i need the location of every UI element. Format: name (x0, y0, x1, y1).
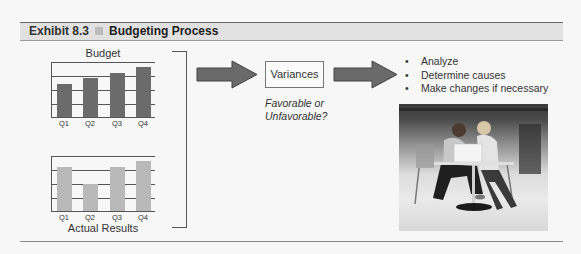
tick-label: Q2 (80, 213, 100, 222)
bar-q1 (57, 84, 72, 117)
exhibit-header: Exhibit 8.3 Budgeting Process (20, 22, 563, 41)
chart-frame (51, 62, 155, 63)
bracket-line (172, 227, 187, 228)
action-list: •Analyze •Determine causes •Make changes… (404, 55, 548, 96)
tick-label: Q1 (54, 213, 74, 222)
question-line: Favorable or (265, 97, 327, 110)
bar-q3 (110, 73, 125, 117)
favorable-question: Favorable or Unfavorable? (265, 97, 327, 123)
chart-baseline (51, 211, 155, 212)
bullet-icon: • (405, 82, 409, 96)
header-square-icon (95, 27, 103, 35)
chart-baseline (51, 117, 155, 118)
bar-q2 (83, 78, 98, 117)
bar-q1 (57, 167, 72, 211)
tick-label: Q2 (80, 119, 100, 128)
bar-q4 (136, 67, 151, 117)
bracket-line (172, 51, 187, 52)
actual-chart-title: Actual Results (51, 222, 155, 234)
budget-chart: Q1 Q2 Q3 Q4 (51, 62, 155, 118)
list-item-label: Analyze (421, 55, 458, 67)
bar-q3 (110, 167, 125, 211)
list-item-label: Determine causes (421, 69, 506, 81)
list-item-label: Make changes if necessary (421, 82, 548, 94)
tick-label: Q1 (54, 119, 74, 128)
bar-q4 (136, 161, 151, 211)
chart-frame (51, 156, 155, 157)
tick-label: Q4 (133, 213, 153, 222)
tick-label: Q3 (107, 213, 127, 222)
list-item: •Analyze (404, 55, 548, 69)
variances-box: Variances (265, 61, 324, 88)
bullet-icon: • (405, 69, 409, 83)
exhibit-number: Exhibit 8.3 (29, 24, 89, 38)
tick-label: Q3 (107, 119, 127, 128)
budget-chart-title: Budget (51, 47, 155, 59)
tick-label: Q4 (133, 119, 153, 128)
bracket-line (186, 51, 187, 228)
question-line: Unfavorable? (265, 110, 327, 123)
bottom-rule (20, 241, 563, 242)
actual-chart: Q1 Q2 Q3 Q4 (51, 156, 155, 212)
list-item: •Make changes if necessary (404, 82, 548, 96)
meeting-photo (399, 104, 548, 231)
right-arrow-icon (333, 60, 398, 89)
list-item: •Determine causes (404, 69, 548, 83)
exhibit-title: Budgeting Process (109, 24, 218, 38)
people-illustration-icon (399, 104, 548, 231)
bullet-icon: • (405, 55, 409, 69)
right-arrow-icon (196, 60, 258, 89)
bar-q2 (83, 184, 98, 211)
